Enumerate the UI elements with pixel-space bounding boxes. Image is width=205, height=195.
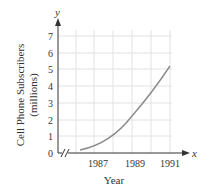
svg-text:1991: 1991 — [160, 158, 180, 169]
svg-text:5: 5 — [48, 64, 53, 75]
svg-text:1: 1 — [48, 131, 53, 142]
svg-text:Cell Phone Subscribers: Cell Phone Subscribers — [14, 44, 26, 147]
svg-text:3: 3 — [48, 98, 53, 109]
svg-text:(millions): (millions) — [27, 73, 40, 117]
grid — [58, 30, 172, 153]
svg-text:2: 2 — [48, 115, 53, 126]
svg-text:7: 7 — [48, 31, 53, 42]
x-axis-title: Year — [104, 174, 125, 186]
axis-break-icon — [61, 149, 69, 157]
y-tick-labels: 0 1 2 3 4 5 6 7 — [48, 31, 53, 159]
svg-text:1987: 1987 — [88, 158, 108, 169]
svg-text:4: 4 — [48, 81, 53, 92]
x-axis-arrow-icon — [182, 150, 190, 156]
y-axis-arrow-icon — [55, 18, 61, 26]
svg-text:1989: 1989 — [125, 158, 145, 169]
y-axis-title: Cell Phone Subscribers (millions) — [14, 44, 40, 147]
y-axis-variable: y — [54, 6, 60, 18]
chart: 0 1 2 3 4 5 6 7 1987 1989 1991 y x Year … — [0, 0, 205, 195]
svg-text:0: 0 — [48, 148, 53, 159]
x-axis-variable: x — [191, 147, 197, 159]
x-tick-labels: 1987 1989 1991 — [88, 158, 180, 169]
svg-text:6: 6 — [48, 48, 53, 59]
